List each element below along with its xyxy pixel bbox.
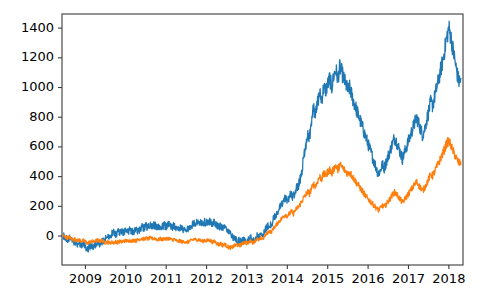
x-tick-label: 2010 bbox=[109, 271, 142, 286]
line-chart: 0200400600800100012001400 20092010201120… bbox=[0, 0, 493, 305]
chart-figure: 0200400600800100012001400 20092010201120… bbox=[0, 0, 493, 305]
y-tick-label: 600 bbox=[29, 138, 54, 153]
x-tick-label: 2018 bbox=[432, 271, 465, 286]
y-tick-label: 400 bbox=[29, 168, 54, 183]
y-tick-label: 1000 bbox=[21, 79, 54, 94]
plot-area-background bbox=[62, 14, 463, 265]
y-tick-label: 0 bbox=[46, 228, 54, 243]
x-tick-label: 2013 bbox=[230, 271, 263, 286]
x-tick-label: 2012 bbox=[190, 271, 223, 286]
x-tick-label: 2011 bbox=[150, 271, 183, 286]
x-tick-label: 2016 bbox=[352, 271, 385, 286]
y-tick-label: 1400 bbox=[21, 20, 54, 35]
y-tick-label: 800 bbox=[29, 109, 54, 124]
x-tick-label: 2009 bbox=[69, 271, 102, 286]
y-tick-label: 200 bbox=[29, 198, 54, 213]
y-tick-label: 1200 bbox=[21, 49, 54, 64]
x-tick-label: 2017 bbox=[392, 271, 425, 286]
x-tick-label: 2014 bbox=[271, 271, 304, 286]
x-tick-label: 2015 bbox=[311, 271, 344, 286]
